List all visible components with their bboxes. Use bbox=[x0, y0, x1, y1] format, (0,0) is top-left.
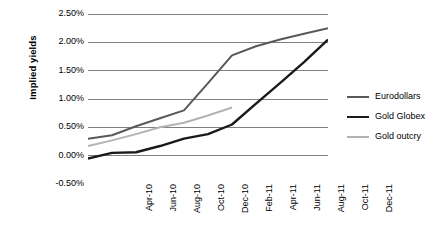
legend-label: Gold Globex bbox=[375, 110, 425, 122]
x-tick-label: Oct-10 bbox=[216, 184, 226, 236]
x-tick-label: Dec-10 bbox=[240, 184, 250, 236]
series-lines bbox=[88, 28, 328, 158]
x-tick-label: Jun-10 bbox=[168, 184, 178, 236]
y-axis-tick-labels: -0.50%0.00%0.50%1.00%1.50%2.00%2.50% bbox=[39, 0, 84, 240]
x-tick-label: Apr-10 bbox=[144, 184, 154, 236]
x-tick-label: Jun-11 bbox=[312, 184, 322, 236]
y-tick-label: -0.50% bbox=[40, 179, 84, 188]
plot-svg bbox=[88, 14, 328, 184]
x-tick-label: Feb-11 bbox=[264, 184, 274, 236]
x-tick-label: Dec-11 bbox=[384, 184, 394, 236]
y-tick-label: 0.50% bbox=[40, 122, 84, 131]
x-tick-label: Apr-11 bbox=[288, 184, 298, 236]
plot-area bbox=[88, 14, 328, 184]
legend-label: Gold outcry bbox=[375, 130, 421, 142]
x-tick-label: Oct-11 bbox=[360, 184, 370, 236]
x-tick-label: Aug-11 bbox=[336, 184, 346, 236]
x-axis-tick-labels: Apr-10Jun-10Aug-10Oct-10Dec-10Feb-11Apr-… bbox=[88, 184, 328, 240]
gridlines bbox=[88, 14, 328, 184]
y-tick-label: 2.00% bbox=[40, 37, 84, 46]
y-axis-title: Implied yields bbox=[27, 13, 38, 123]
implied-yields-line-chart: Implied yields -0.50%0.00%0.50%1.00%1.50… bbox=[0, 0, 433, 240]
legend-item[interactable]: Gold outcry bbox=[347, 128, 433, 148]
y-tick-label: 1.50% bbox=[40, 66, 84, 75]
y-tick-label: 1.00% bbox=[40, 94, 84, 103]
legend-item[interactable]: Eurodollars bbox=[347, 88, 433, 108]
series-line-gold-outcry bbox=[88, 108, 232, 147]
legend-item[interactable]: Gold Globex bbox=[347, 108, 433, 128]
y-tick-label: 2.50% bbox=[40, 9, 84, 18]
chart-legend: EurodollarsGold GlobexGold outcry bbox=[347, 88, 433, 148]
legend-label: Eurodollars bbox=[375, 90, 421, 102]
series-line-eurodollars bbox=[88, 28, 328, 139]
legend-swatch-icon bbox=[347, 136, 369, 138]
y-tick-label: 0.00% bbox=[40, 151, 84, 160]
x-tick-label: Aug-10 bbox=[192, 184, 202, 236]
legend-swatch-icon bbox=[347, 96, 369, 98]
legend-swatch-icon bbox=[347, 116, 369, 118]
